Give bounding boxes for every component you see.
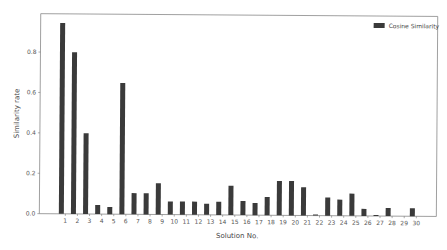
bar-25 — [349, 194, 354, 216]
x-tick-label: 26 — [364, 219, 372, 226]
bar-12 — [192, 202, 197, 215]
x-tick-label: 18 — [267, 218, 275, 225]
x-tick-label: 16 — [243, 218, 251, 225]
x-tick-label: 13 — [207, 218, 215, 225]
x-tick-label: 30 — [412, 219, 420, 226]
legend-swatch — [374, 23, 385, 28]
x-tick-label: 29 — [400, 219, 408, 226]
x-tick-label: 11 — [182, 218, 190, 225]
bar-30 — [410, 208, 415, 216]
x-tick-label: 27 — [376, 219, 384, 226]
bar-4 — [95, 205, 100, 214]
x-tick-label: 12 — [195, 218, 203, 225]
x-tick-label: 7 — [136, 217, 140, 224]
bar-18 — [265, 197, 270, 215]
bar-10 — [168, 201, 173, 214]
x-tick-label: 19 — [279, 218, 287, 225]
x-tick-label: 20 — [291, 218, 299, 225]
x-tick-label: 4 — [100, 217, 104, 224]
x-tick-label: 6 — [124, 217, 128, 224]
bar-14 — [216, 202, 221, 215]
bar-15 — [228, 186, 233, 215]
bar-21 — [301, 187, 306, 215]
x-tick-label: 14 — [219, 218, 227, 225]
x-axis-label: Solution No. — [216, 232, 258, 240]
bar-17 — [252, 203, 257, 215]
bar-24 — [337, 200, 342, 216]
bar-11 — [180, 202, 185, 215]
y-ticks: 0.00.20.40.60.8 — [26, 48, 41, 217]
bar-9 — [156, 183, 161, 214]
x-tick-label: 10 — [170, 218, 178, 225]
bar-27 — [374, 215, 379, 216]
x-tick-label: 25 — [352, 219, 360, 226]
y-tick-label: 0.8 — [27, 48, 37, 55]
x-tick-label: 22 — [316, 219, 324, 226]
y-tick-label: 0.2 — [26, 169, 36, 176]
plot-area — [39, 14, 437, 217]
bar-13 — [204, 204, 209, 215]
bar-28 — [386, 208, 391, 216]
bar-7 — [131, 193, 136, 214]
bar-22 — [313, 215, 318, 216]
bar-23 — [325, 197, 330, 215]
bar-6 — [119, 83, 125, 214]
x-tick-label: 24 — [340, 219, 348, 226]
x-tick-label: 23 — [328, 219, 336, 226]
bar-20 — [289, 181, 294, 215]
bar-16 — [240, 201, 245, 215]
x-tick-label: 8 — [148, 217, 152, 224]
y-axis-label: Similarity rate — [13, 89, 21, 139]
bar-8 — [144, 193, 149, 214]
x-tick-label: 5 — [112, 217, 116, 224]
y-tick-label: 0.0 — [26, 210, 36, 217]
bar-chart: 1234567891011121314151617181920212223242… — [0, 0, 447, 250]
x-tick-label: 28 — [388, 219, 396, 226]
x-tick-label: 2 — [75, 217, 79, 224]
x-tick-label: 3 — [88, 217, 92, 224]
y-tick-label: 0.6 — [27, 88, 37, 95]
x-tick-label: 9 — [160, 218, 164, 225]
x-tick-label: 21 — [304, 219, 312, 226]
bar-19 — [277, 181, 282, 215]
x-tick-label: 15 — [231, 218, 239, 225]
x-tick-label: 17 — [255, 218, 263, 225]
y-tick-label: 0.4 — [26, 129, 36, 136]
bar-26 — [361, 209, 366, 216]
bar-5 — [107, 207, 112, 214]
bar-3 — [83, 133, 89, 214]
x-tick-label: 1 — [63, 217, 67, 224]
